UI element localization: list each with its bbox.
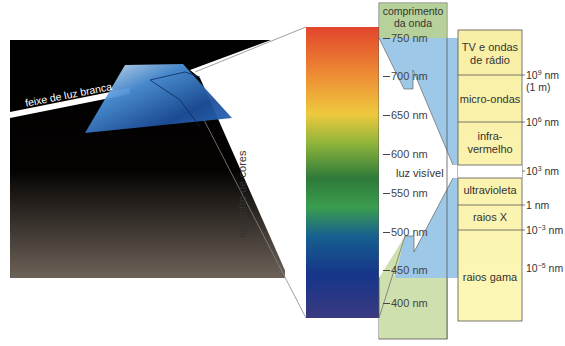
wavelength-650: 650 nm — [391, 109, 428, 121]
band-microwave: micro-ondas — [458, 75, 522, 122]
boundary-1nm: 1 nm — [526, 199, 549, 211]
wavelength-750: 750 nm — [391, 32, 428, 44]
band-xray: raios X — [458, 205, 522, 230]
band-ultraviolet: ultravioleta — [458, 178, 522, 205]
wavelength-500: 500 nm — [391, 226, 428, 238]
boundary-1e9: 109 nm (1 m) — [526, 69, 559, 93]
wavelength-400: 400 nm — [391, 297, 428, 309]
boundary-1e3: 103 nm — [526, 165, 559, 177]
wavelength-header-line1: comprimento — [379, 5, 447, 17]
visible-light-label: luz visível — [396, 167, 444, 179]
boundary-1e-5: 10−5 nm — [526, 262, 563, 274]
wavelength-header-line2: da onda — [379, 17, 447, 29]
band-radio: TV e ondas de rádio — [458, 30, 522, 75]
wavelength-600: 600 nm — [391, 148, 428, 160]
band-infrared: infra- vermelho — [458, 122, 522, 165]
boundary-1e6: 106 nm — [526, 116, 559, 128]
band-gamma: raios gama — [458, 230, 522, 321]
wavelength-550: 550 nm — [391, 187, 428, 199]
wavelength-450: 450 nm — [391, 264, 428, 276]
color-spectrum-bar — [306, 27, 379, 318]
spectrum-label: espectro de cores — [236, 151, 248, 238]
wavelength-header: comprimento da onda — [379, 5, 447, 29]
wavelength-700: 700 nm — [391, 70, 428, 82]
boundary-1e-3: 10−3 nm — [526, 224, 563, 236]
